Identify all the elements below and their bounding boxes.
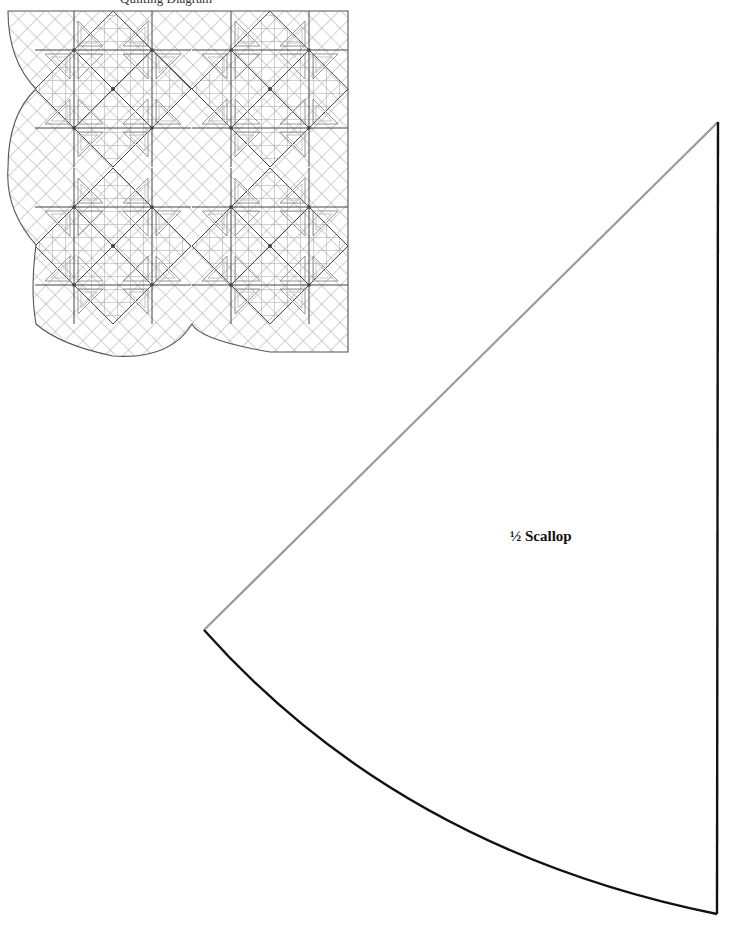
- template-right-edge: [717, 122, 718, 914]
- template-label: ½ Scallop: [510, 528, 572, 545]
- template-curved-edge: [204, 630, 717, 914]
- half-scallop-template: [0, 0, 735, 949]
- template-top-edge: [204, 122, 718, 630]
